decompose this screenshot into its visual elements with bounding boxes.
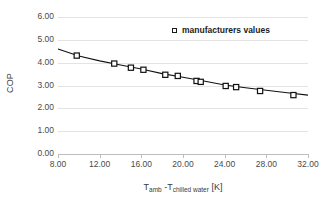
data-point-marker	[198, 79, 203, 84]
chart-container: 0.001.002.003.004.005.006.00 COP 8.0012.…	[0, 0, 329, 206]
y-axis-tick-label: 4.00	[14, 58, 54, 67]
data-point-marker	[163, 72, 168, 77]
x-axis-tick-label: 32.00	[288, 159, 328, 169]
open-square-marker-icon	[172, 28, 177, 33]
legend-label: manufacturers values	[182, 25, 270, 35]
trend-line	[58, 49, 308, 95]
data-point-marker	[74, 53, 79, 58]
series-plot	[58, 17, 308, 154]
plot-area	[58, 17, 308, 154]
x-axis-tick	[183, 154, 184, 158]
data-point-marker	[223, 83, 228, 88]
x-axis-tick-label: 24.00	[205, 159, 245, 169]
y-axis-tick-label: 0.00	[14, 149, 54, 158]
data-point-marker	[112, 61, 117, 66]
x-axis-tick	[100, 154, 101, 158]
y-axis-tick-label: 2.00	[14, 103, 54, 112]
x-axis-tick-label: 20.00	[163, 159, 203, 169]
data-point-marker	[128, 65, 133, 70]
data-point-marker	[291, 92, 296, 97]
y-axis-tick-label: 3.00	[14, 81, 54, 90]
data-point-marker	[175, 73, 180, 78]
x-axis-tick	[266, 154, 267, 158]
y-axis-tick-label: 6.00	[14, 12, 54, 21]
data-point-markers	[74, 53, 296, 98]
x-axis-tick-label: 8.00	[38, 159, 78, 169]
x-axis-tick	[58, 154, 59, 158]
chart-legend: manufacturers values	[172, 25, 270, 35]
x-axis-title: Tamb -Tchilled water [K]	[58, 182, 308, 192]
data-point-marker	[141, 67, 146, 72]
x-axis-tick	[308, 154, 309, 158]
x-axis-tick-label: 12.00	[80, 159, 120, 169]
y-axis-title: COP	[5, 53, 15, 113]
x-axis-tick	[225, 154, 226, 158]
x-axis-tick	[141, 154, 142, 158]
y-axis-tick-label: 1.00	[14, 126, 54, 135]
data-point-marker	[234, 85, 239, 90]
y-axis-tick-labels: 0.001.002.003.004.005.006.00	[12, 0, 54, 206]
data-point-marker	[257, 88, 262, 93]
x-axis-tick-label: 28.00	[246, 159, 286, 169]
y-axis-tick-label: 5.00	[14, 35, 54, 44]
x-axis-tick-label: 16.00	[121, 159, 161, 169]
